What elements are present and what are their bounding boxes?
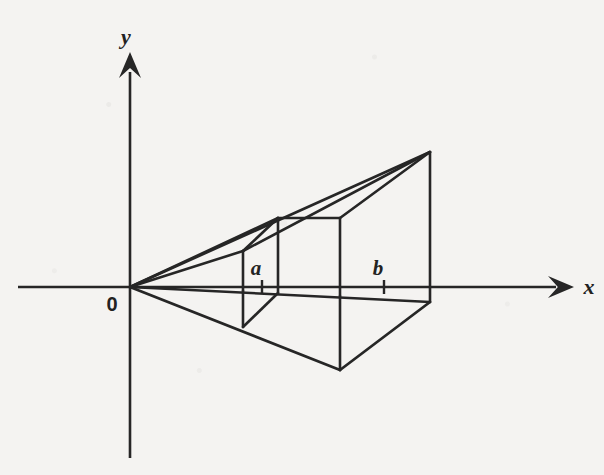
solid-edge-lower-ray-origin-to-bottom — [130, 287, 340, 370]
solid-edge-ray-origin-to-back-top — [130, 251, 243, 287]
diagram-svg: ab y x 0 — [0, 0, 604, 475]
tick-label-a: a — [251, 256, 262, 280]
solid-wireframe-group — [130, 152, 430, 370]
solid-edge-ray-origin-to-apex — [130, 152, 430, 287]
tick-label-b: b — [373, 256, 384, 280]
figure-canvas: ab y x 0 — [0, 0, 604, 475]
solid-edge-upper-back-edge-to-apex — [243, 152, 430, 251]
origin-label: 0 — [106, 293, 117, 315]
solid-edge-lower-slant-a — [243, 293, 278, 327]
solid-edge-lower-bottom-to-right — [340, 302, 430, 370]
y-axis-label: y — [118, 24, 131, 49]
x-axis-label: x — [583, 274, 595, 299]
axes-group — [18, 52, 574, 458]
